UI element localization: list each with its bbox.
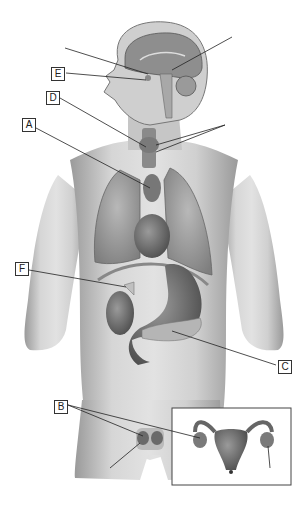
- label-e: E: [51, 67, 65, 81]
- label-b: B: [54, 400, 68, 414]
- head: [104, 22, 207, 125]
- label-d: D: [46, 91, 60, 105]
- uterus-inset: [172, 408, 291, 485]
- testes: [136, 428, 164, 450]
- label-a: A: [22, 118, 36, 132]
- heart: [134, 214, 170, 258]
- thymus: [143, 174, 161, 202]
- endocrine-diagram: [0, 0, 308, 512]
- thyroid: [139, 128, 159, 168]
- label-c: C: [278, 360, 292, 374]
- label-f: F: [15, 262, 29, 276]
